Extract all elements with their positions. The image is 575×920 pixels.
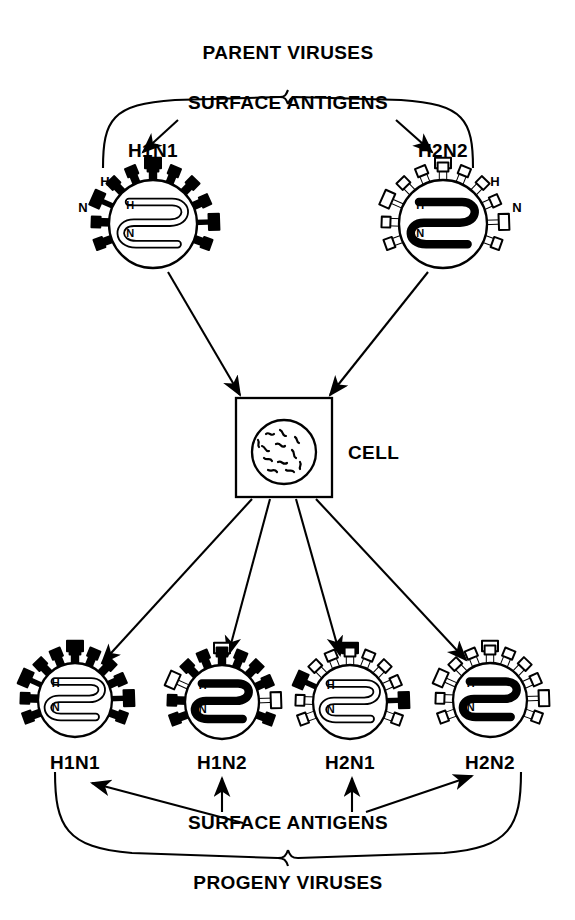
progeny-strain-label-h1n2: H1N2 bbox=[197, 752, 247, 774]
svg-text:H: H bbox=[52, 677, 60, 689]
diagram-canvas: HNHNHNHNHNHNHNHN bbox=[0, 0, 575, 920]
svg-text:H: H bbox=[490, 174, 499, 189]
svg-text:H: H bbox=[416, 199, 424, 211]
parent-virus-h2n2: HNHN bbox=[379, 158, 521, 268]
parent-strain-label-h2n2: H2N2 bbox=[418, 140, 468, 162]
svg-text:H: H bbox=[467, 677, 475, 689]
progeny-strain-label-h2n2: H2N2 bbox=[465, 752, 515, 774]
surface-antigens-label-bottom: SURFACE ANTIGENS bbox=[188, 812, 388, 834]
infection-arrows bbox=[168, 272, 428, 395]
cell-label: CELL bbox=[348, 442, 399, 464]
svg-text:N: N bbox=[512, 200, 521, 215]
svg-text:N: N bbox=[78, 200, 87, 215]
svg-text:N: N bbox=[52, 701, 60, 713]
surface-antigens-label-top: SURFACE ANTIGENS bbox=[188, 92, 388, 114]
svg-text:H: H bbox=[126, 199, 134, 211]
progeny-virus-h1n2: HN bbox=[165, 643, 282, 739]
svg-text:H: H bbox=[100, 174, 109, 189]
parent-viruses-title: PARENT VIRUSES bbox=[203, 42, 374, 64]
progeny-viruses-title: PROGENY VIRUSES bbox=[193, 872, 382, 894]
progeny-virus-h1n1: HN bbox=[18, 641, 135, 737]
progeny-virus-h2n2: HN bbox=[433, 641, 550, 737]
parent-virus-h1n1: HNHN bbox=[78, 158, 219, 268]
svg-text:H: H bbox=[199, 679, 207, 691]
svg-text:N: N bbox=[327, 703, 335, 715]
svg-text:N: N bbox=[199, 703, 207, 715]
top-antigen-arrows bbox=[143, 120, 432, 152]
svg-text:N: N bbox=[467, 701, 475, 713]
progeny-arrows bbox=[102, 499, 466, 663]
progeny-virus-h2n1: HN bbox=[293, 643, 410, 739]
parent-strain-label-h1n1: H1N1 bbox=[128, 140, 178, 162]
progeny-strain-label-h2n1: H2N1 bbox=[325, 752, 375, 774]
host-cell bbox=[236, 398, 332, 497]
svg-text:N: N bbox=[126, 227, 134, 239]
virus-reassortment-diagram: HNHNHNHNHNHNHNHN PARENT VIRUSES SURFACE … bbox=[0, 0, 575, 920]
svg-text:N: N bbox=[416, 227, 424, 239]
svg-text:H: H bbox=[327, 679, 335, 691]
progeny-strain-label-h1n1: H1N1 bbox=[50, 752, 100, 774]
